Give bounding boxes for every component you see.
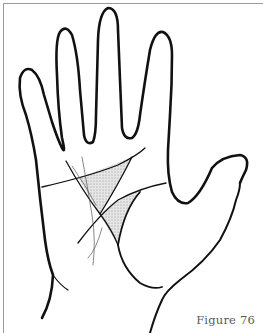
fate-line-2 (88, 228, 102, 258)
hand-illustration (0, 0, 263, 333)
hand-outline (20, 8, 248, 333)
figure-caption: Figure 76 (196, 313, 255, 327)
